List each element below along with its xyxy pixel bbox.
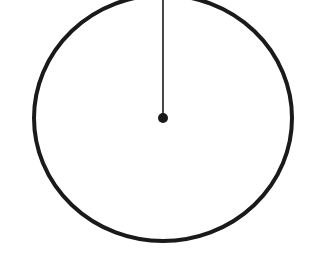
circle-diagram	[0, 0, 316, 258]
center-point	[158, 113, 168, 123]
